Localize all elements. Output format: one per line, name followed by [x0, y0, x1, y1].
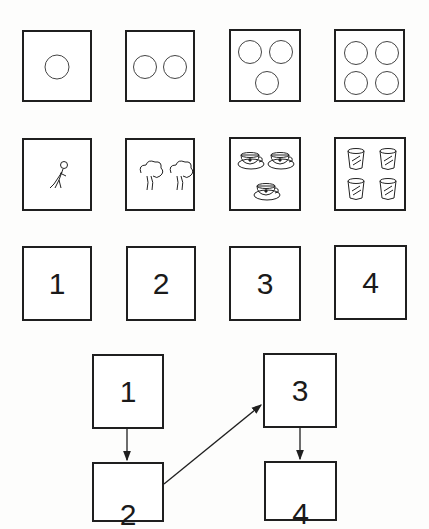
flow-node-label: 1	[94, 375, 162, 409]
picture-card-4	[334, 137, 406, 211]
circle-icon	[24, 32, 94, 104]
stick-figure-icon	[24, 140, 94, 213]
arrow-2-to-3	[164, 405, 261, 484]
flow-node-2: 2	[92, 462, 164, 522]
flow-node-label: 3	[265, 374, 335, 408]
picture-card-2	[125, 138, 195, 211]
circle-icon	[231, 31, 303, 104]
circle-icon	[127, 32, 197, 104]
numeral-card-4: 4	[334, 245, 407, 320]
tree-icon	[127, 140, 197, 213]
numeral-label: 3	[231, 267, 299, 301]
circle-icon	[336, 31, 407, 104]
circle-card-2	[125, 30, 195, 102]
numeral-card-1: 1	[22, 246, 92, 321]
flow-node-label: 2	[94, 498, 162, 529]
numeral-card-2: 2	[126, 246, 196, 321]
numeral-label: 4	[336, 266, 405, 300]
numeral-card-3: 3	[229, 246, 301, 321]
flow-node-3: 3	[263, 353, 337, 428]
glass-icon	[336, 139, 408, 213]
circle-card-4	[334, 29, 405, 102]
numeral-label: 1	[24, 267, 90, 301]
circle-card-1	[22, 30, 92, 102]
flow-node-label: 4	[266, 497, 335, 529]
flow-node-1: 1	[92, 354, 164, 429]
circle-card-3	[229, 29, 301, 102]
flow-node-4: 4	[264, 461, 337, 521]
teacup-icon	[231, 139, 303, 213]
numeral-label: 2	[128, 267, 194, 301]
picture-card-1	[22, 138, 92, 211]
picture-card-3	[229, 137, 301, 211]
